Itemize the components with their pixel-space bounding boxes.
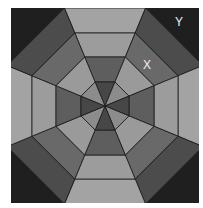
ring-3-sector-4 <box>64 179 145 204</box>
ring-2-sector-6 <box>32 76 56 136</box>
ring-3-sector-6 <box>7 65 32 146</box>
ring-3-sector-0 <box>64 8 145 33</box>
ring-2-sector-2 <box>154 76 178 136</box>
label-y: Y <box>175 16 183 28</box>
label-x: X <box>143 59 151 71</box>
octagon-figure <box>0 0 203 208</box>
ring-2-sector-4 <box>75 155 135 179</box>
ring-3-sector-2 <box>178 65 203 146</box>
ring-2-sector-0 <box>75 33 135 57</box>
